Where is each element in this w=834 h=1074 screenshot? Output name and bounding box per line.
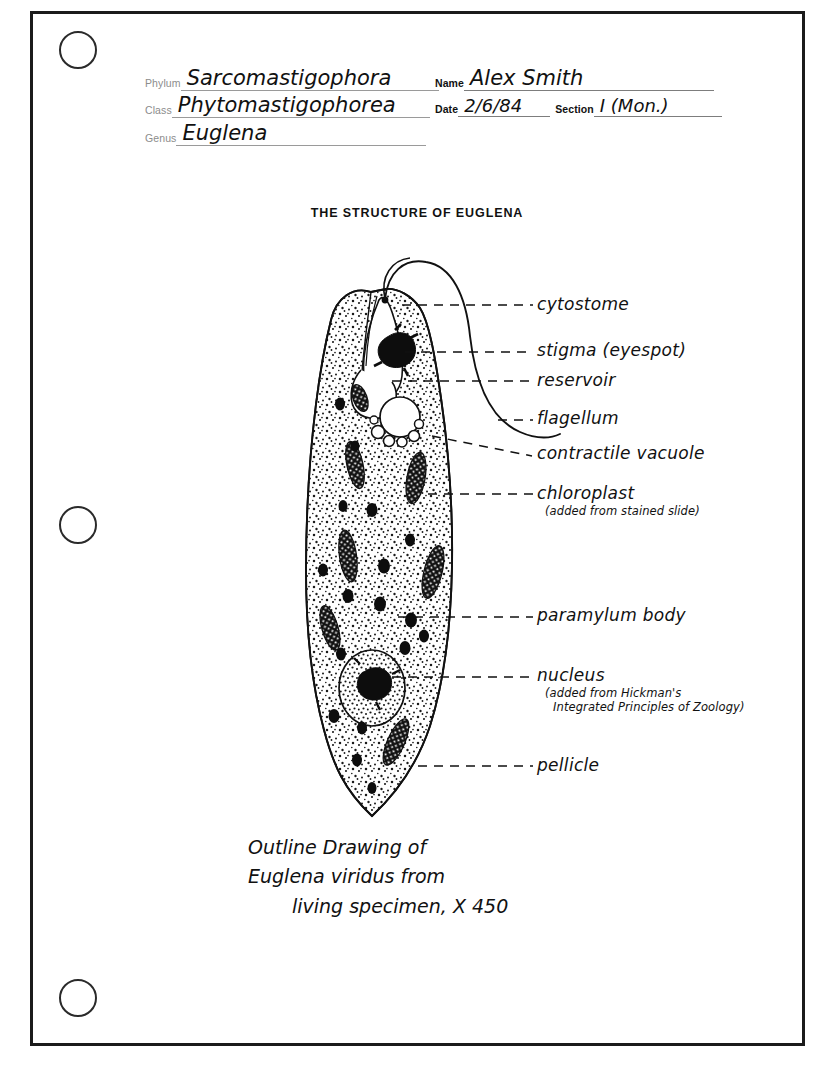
label-stigma: stigma (eyespot) bbox=[537, 341, 686, 361]
caption-line-2: Euglena viridus from bbox=[248, 865, 445, 887]
worksheet-page: Phylum Sarcomastigophora Class Phytomast… bbox=[0, 0, 834, 1074]
drawing-caption: Outline Drawing of Euglena viridus from … bbox=[248, 833, 668, 921]
nucleolus bbox=[357, 668, 391, 700]
label-nucleus: nucleus (added from Hickman's Integrated… bbox=[537, 666, 745, 714]
nucleus-structure bbox=[339, 650, 405, 726]
label-contractile-vacuole: contractile vacuole bbox=[537, 444, 705, 464]
label-flagellum: flagellum bbox=[537, 409, 619, 429]
label-chloroplast: chloroplast (added from stained slide) bbox=[537, 484, 700, 518]
label-pellicle: pellicle bbox=[537, 756, 599, 776]
caption-line-3: living specimen, X 450 bbox=[292, 892, 668, 921]
label-paramylum-body: paramylum body bbox=[537, 606, 686, 626]
label-cytostome: cytostome bbox=[537, 295, 629, 315]
caption-line-1: Outline Drawing of bbox=[248, 836, 426, 858]
label-reservoir: reservoir bbox=[537, 371, 616, 391]
